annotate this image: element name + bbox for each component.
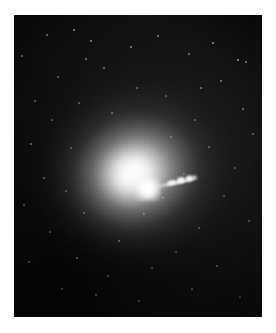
- point-source: [130, 46, 132, 48]
- sky-field: [14, 15, 262, 317]
- galaxy-nucleus-core-point: [142, 184, 152, 193]
- point-source: [21, 55, 23, 57]
- point-source: [157, 35, 159, 37]
- photograph-frame: [0, 0, 276, 333]
- image-caption: [14, 319, 262, 331]
- point-source: [138, 300, 139, 301]
- jet-knot: [176, 177, 185, 184]
- point-source: [191, 288, 192, 289]
- point-source: [73, 29, 75, 31]
- point-source: [237, 59, 239, 61]
- point-source: [245, 61, 247, 63]
- point-source: [46, 34, 48, 36]
- point-source: [239, 296, 240, 297]
- point-source: [90, 40, 92, 42]
- point-source: [85, 58, 87, 60]
